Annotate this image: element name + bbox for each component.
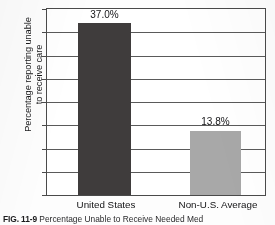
bar-united-states[interactable] [78,23,131,195]
bar-non-us-average[interactable] [190,131,241,195]
tick-mark-25 [42,79,46,80]
figure-number: FIG. 11-9 [3,215,37,224]
figure-container: Percentage reporting unable to receive c… [0,0,275,225]
x-category-label-united-states: United States [46,199,166,210]
x-category-label-non-us-average: Non-U.S. Average [161,199,275,210]
bar-value-label-non-us-average: 13.8% [188,116,243,127]
figure-caption: FIG. 11-9 Percentage Unable to Receive N… [3,215,275,225]
tick-mark-0 [42,195,46,196]
tick-mark-20 [42,102,46,103]
y-axis-title: Percentage reporting unable to receive c… [23,0,44,170]
tick-mark-5 [42,172,46,173]
figure-caption-text: Percentage Unable to Receive Needed Med [39,215,203,224]
tick-mark-35 [42,32,46,33]
tick-mark-15 [42,125,46,126]
tick-mark-10 [42,149,46,150]
bar-value-label-united-states: 37.0% [78,9,131,20]
tick-mark-40 [42,9,46,10]
tick-mark-30 [42,56,46,57]
plot-area: 40 35 30 25 20 15 [46,8,266,196]
